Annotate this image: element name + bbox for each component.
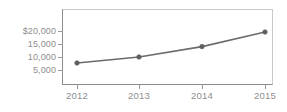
screenshot-root: $20,000 15,000 10,000 5,000 2012 2013 20…: [0, 0, 287, 112]
series-layer: [0, 0, 287, 112]
series-data-point: [263, 30, 268, 35]
line-chart-figure: $20,000 15,000 10,000 5,000 2012 2013 20…: [0, 0, 287, 112]
series-data-point: [137, 55, 142, 60]
series-data-point: [200, 44, 205, 49]
series-data-point: [75, 61, 80, 66]
series-line: [77, 32, 265, 63]
